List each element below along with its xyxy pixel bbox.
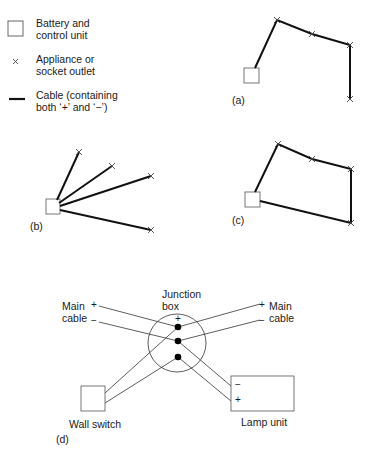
junction-plus: + xyxy=(175,313,181,325)
diagram-b xyxy=(46,149,154,233)
legend-appliance-label: Appliance orsocket outlet xyxy=(36,53,95,77)
label-a: (a) xyxy=(232,94,245,106)
label-d: (d) xyxy=(56,433,69,445)
main-cable-right-plus: + xyxy=(259,299,265,311)
main-cable-left-plus: + xyxy=(91,299,97,311)
lamp-minus: − xyxy=(235,379,241,391)
lamp-unit-label: Lamp unit xyxy=(241,416,287,428)
wall-switch-label: Wall switch xyxy=(69,418,121,430)
legend-battery-label: Battery andcontrol unit xyxy=(36,17,90,41)
junction-box-label: Junctionbox xyxy=(162,288,201,312)
junction-terminals xyxy=(175,324,182,361)
diagram-c xyxy=(245,141,354,226)
main-cable-right-label: Maincable xyxy=(269,300,294,324)
label-b: (b) xyxy=(30,220,43,232)
legend-square-icon xyxy=(8,21,23,36)
legend-cross-icon xyxy=(13,59,18,64)
legend-cable-label: Cable (containingboth ‘+’ and ‘−’) xyxy=(36,89,118,113)
diagram-a xyxy=(244,17,353,102)
main-cable-right-minus: − xyxy=(259,315,265,327)
main-cable-left-label: Maincable xyxy=(62,300,87,324)
main-cable-left-minus: − xyxy=(91,315,97,327)
label-c: (c) xyxy=(232,214,244,226)
lamp-plus: + xyxy=(235,394,241,406)
